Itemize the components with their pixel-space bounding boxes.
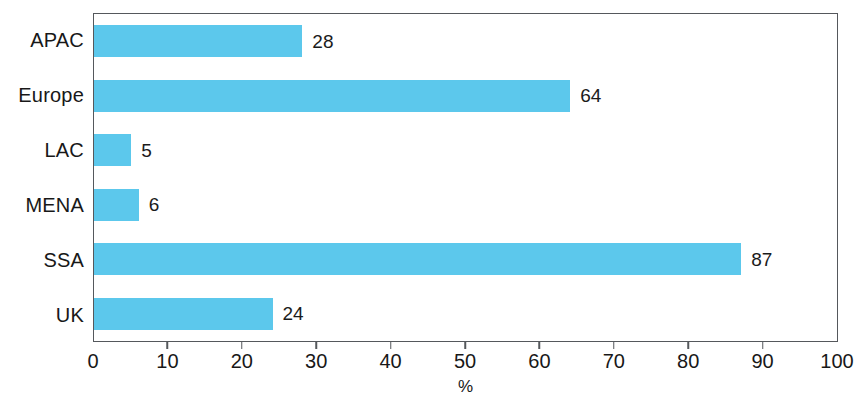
bars-container: 28 64 5 6 87 24 xyxy=(94,14,838,341)
bar-apac xyxy=(94,25,302,57)
x-tick-label: 50 xyxy=(454,351,476,371)
x-tick-label: 30 xyxy=(305,351,327,371)
category-label-ssa: SSA xyxy=(43,250,85,270)
x-tick-label: 60 xyxy=(528,351,550,371)
bar-value-apac: 28 xyxy=(312,32,333,51)
category-label-europe: Europe xyxy=(18,85,85,105)
bar-value-europe: 64 xyxy=(580,86,601,105)
x-tick-label: 10 xyxy=(156,351,178,371)
category-label-uk: UK xyxy=(56,305,85,325)
bar-value-mena: 6 xyxy=(149,195,160,214)
category-label-apac: APAC xyxy=(30,30,85,50)
x-axis-title: % xyxy=(93,378,838,395)
x-tick-mark xyxy=(241,342,243,349)
bar-row: 28 xyxy=(94,25,838,57)
x-tick-mark xyxy=(762,342,764,349)
x-tick-label: 70 xyxy=(603,351,625,371)
bar-mena xyxy=(94,189,139,221)
x-tick-mark xyxy=(167,342,169,349)
category-label-mena: MENA xyxy=(25,195,85,215)
x-tick-label: 0 xyxy=(87,351,98,371)
bar-row: 64 xyxy=(94,80,838,112)
x-tick-mark xyxy=(539,342,541,349)
x-tick-label: 40 xyxy=(379,351,401,371)
x-tick-label: 20 xyxy=(231,351,253,371)
bar-ssa xyxy=(94,243,741,275)
bar-value-lac: 5 xyxy=(141,141,152,160)
bar-value-uk: 24 xyxy=(283,304,304,323)
bar-europe xyxy=(94,80,570,112)
bar-chart: APAC Europe LAC MENA SSA UK 28 64 5 6 87 xyxy=(0,0,857,402)
x-axis-tick-labels: 0102030405060708090100 xyxy=(93,351,838,377)
x-tick-mark xyxy=(464,342,466,349)
x-tick-mark xyxy=(390,342,392,349)
bar-row: 5 xyxy=(94,134,838,166)
bar-row: 87 xyxy=(94,243,838,275)
x-tick-label: 100 xyxy=(820,351,853,371)
x-tick-label: 80 xyxy=(677,351,699,371)
x-tick-label: 90 xyxy=(751,351,773,371)
x-axis-tick-marks xyxy=(93,342,838,349)
x-tick-mark xyxy=(613,342,615,349)
category-axis-labels: APAC Europe LAC MENA SSA UK xyxy=(0,13,85,342)
bar-value-ssa: 87 xyxy=(751,250,772,269)
bar-lac xyxy=(94,134,131,166)
x-tick-mark xyxy=(687,342,689,349)
bar-row: 24 xyxy=(94,298,838,330)
x-tick-mark xyxy=(315,342,317,349)
category-label-lac: LAC xyxy=(44,140,85,160)
bar-uk xyxy=(94,298,273,330)
bar-row: 6 xyxy=(94,189,838,221)
